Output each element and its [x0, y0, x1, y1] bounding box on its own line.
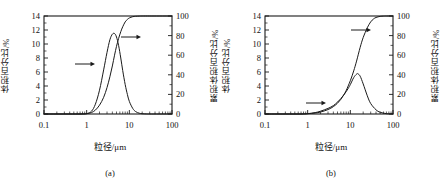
panel-b-caption: (b) [221, 168, 441, 178]
svg-text:60: 60 [397, 50, 406, 60]
svg-text:4: 4 [257, 81, 262, 91]
panel-a-ylabel-left: 体积百分比/% [2, 16, 11, 116]
svg-text:10: 10 [125, 120, 134, 130]
figure-container: 0.111010002468101214020406080100 体积百分比/%… [0, 0, 441, 194]
cumulative-curve [44, 16, 172, 114]
svg-text:100: 100 [176, 11, 189, 21]
arrow-right-icon [75, 62, 95, 67]
panel-a-ylabel-right: 累积体积百分比/% [211, 16, 220, 116]
svg-text:10: 10 [32, 39, 41, 49]
panel-b: 0.111010002468101214020406080100 体积百分比/%… [221, 0, 441, 194]
panel-a: 0.111010002468101214020406080100 体积百分比/%… [0, 0, 220, 194]
arrow-right-icon [351, 28, 371, 33]
svg-text:8: 8 [257, 53, 261, 63]
svg-text:12: 12 [253, 25, 262, 35]
svg-text:20: 20 [176, 89, 185, 99]
differential-curve [44, 33, 172, 114]
svg-text:1: 1 [306, 120, 310, 130]
panel-b-xlabel: 粒径/μm [221, 140, 441, 153]
svg-text:40: 40 [397, 70, 406, 80]
svg-text:0: 0 [257, 109, 261, 119]
arrow-right-icon [121, 35, 141, 40]
svg-text:12: 12 [32, 25, 41, 35]
arrow-right-icon [306, 101, 326, 106]
svg-text:0.1: 0.1 [39, 120, 50, 130]
svg-text:100: 100 [166, 120, 179, 130]
svg-text:40: 40 [176, 70, 185, 80]
svg-text:10: 10 [346, 120, 355, 130]
svg-text:20: 20 [397, 89, 406, 99]
svg-text:2: 2 [257, 95, 261, 105]
svg-text:100: 100 [397, 11, 410, 21]
svg-text:80: 80 [176, 31, 185, 41]
svg-text:0: 0 [176, 109, 180, 119]
svg-text:6: 6 [257, 67, 261, 77]
svg-text:60: 60 [176, 50, 185, 60]
panel-b-plot: 0.111010002468101214020406080100 [221, 0, 441, 160]
svg-text:14: 14 [253, 11, 262, 21]
panel-a-caption: (a) [0, 168, 220, 178]
panel-b-ylabel-right: 累积体积百分比/% [432, 16, 441, 116]
cumulative-curve [265, 16, 393, 114]
svg-text:4: 4 [36, 81, 41, 91]
svg-text:14: 14 [32, 11, 41, 21]
svg-text:10: 10 [253, 39, 262, 49]
svg-text:0: 0 [397, 109, 401, 119]
panel-a-plot: 0.111010002468101214020406080100 [0, 0, 220, 160]
panel-a-xlabel: 粒径/μm [0, 140, 220, 153]
svg-text:100: 100 [387, 120, 400, 130]
svg-text:2: 2 [36, 95, 40, 105]
svg-text:8: 8 [36, 53, 40, 63]
panel-b-ylabel-left: 体积百分比/% [223, 16, 232, 116]
differential-curve [265, 74, 393, 114]
svg-text:6: 6 [36, 67, 40, 77]
svg-text:0.1: 0.1 [260, 120, 271, 130]
svg-text:0: 0 [36, 109, 40, 119]
svg-text:80: 80 [397, 31, 406, 41]
svg-text:1: 1 [85, 120, 89, 130]
